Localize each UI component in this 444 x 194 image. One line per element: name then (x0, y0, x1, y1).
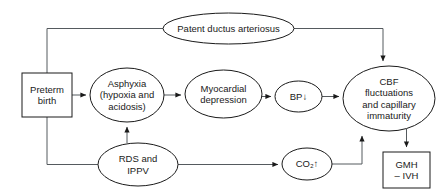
edge-pda-to-cbf (294, 29, 383, 62)
node-rds-and-ippv[interactable] (98, 143, 178, 186)
edge-preterm-to-pda (47, 29, 163, 74)
edge-preterm-to-rds (47, 117, 98, 165)
node-preterm-birth[interactable] (22, 73, 72, 117)
node-myocardial-depression[interactable] (185, 70, 262, 118)
node-cbf-fluctuations[interactable] (343, 66, 435, 131)
node-gmh-ivh[interactable] (383, 152, 430, 188)
node-asphyxia[interactable] (90, 68, 164, 122)
diagram-canvas (0, 0, 444, 194)
edge-co2-to-cbf (332, 136, 362, 164)
node-patent-ductus-arteriosus[interactable] (163, 13, 294, 44)
node-bp-decrease[interactable] (275, 81, 322, 112)
flow-diagram: Patent ductus arteriosus Preterm birth A… (0, 0, 444, 194)
node-co2-increase[interactable] (282, 148, 332, 180)
